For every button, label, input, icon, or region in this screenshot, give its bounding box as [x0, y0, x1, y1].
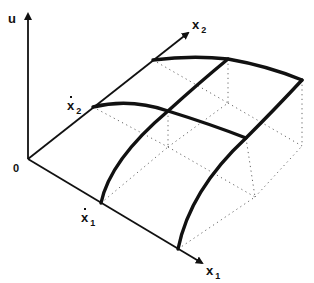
origin-label: 0 [13, 159, 19, 175]
u-axis-label: u [8, 10, 16, 26]
x2-axis [28, 33, 188, 159]
curve-at-far-x1 [178, 80, 302, 249]
surface-curves [93, 57, 302, 249]
x1-bar-label: x1 [81, 209, 95, 225]
x2-bar-label: x2 [67, 97, 81, 113]
x2-axis-label: x2 [192, 16, 206, 32]
utility-surface-diagram [0, 0, 314, 283]
x1-axis-label: x1 [206, 262, 220, 278]
x1-axis [28, 159, 202, 263]
